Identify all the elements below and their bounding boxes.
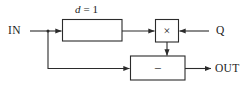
delay-param-symbol: d [75, 3, 81, 15]
multiply-symbol: × [156, 25, 179, 37]
port-label-in: IN [8, 25, 21, 37]
diagram-canvas [0, 0, 243, 87]
port-label-q: Q [216, 25, 225, 37]
delay-param-label: d= 1 [75, 4, 98, 15]
block-diagram: d= 1 × − IN Q OUT [0, 0, 243, 87]
port-label-out: OUT [215, 63, 240, 75]
subtract-symbol: − [131, 62, 186, 75]
delay-param-value: = 1 [84, 3, 98, 15]
delay-block[interactable] [63, 20, 123, 42]
